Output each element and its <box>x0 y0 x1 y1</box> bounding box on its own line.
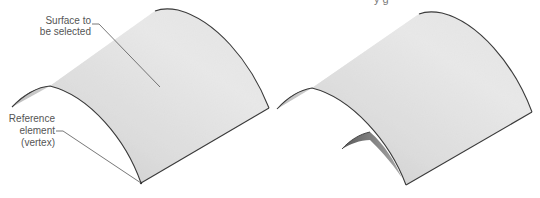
right-surface-panel <box>277 12 532 185</box>
diagram-canvas: y g Surface to be selected Reference ele… <box>0 0 540 198</box>
surface-label-line1: Surface to <box>45 15 91 26</box>
reference-label-line1: Reference <box>9 113 56 124</box>
cutoff-text: y g <box>374 0 389 5</box>
reference-label-line3: (vertex) <box>21 137 55 148</box>
right-surface-highlight <box>312 12 532 185</box>
surface-label-line2: be selected <box>40 26 91 37</box>
reference-label-line2: element <box>19 125 55 136</box>
